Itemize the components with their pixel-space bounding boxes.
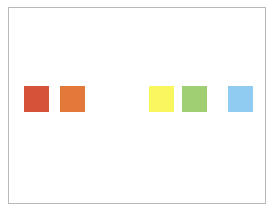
swatch-blue[interactable] xyxy=(228,86,253,112)
swatch-green[interactable] xyxy=(182,86,207,112)
swatch-yellow[interactable] xyxy=(149,86,174,112)
swatch-red[interactable] xyxy=(24,86,49,112)
swatch-orange[interactable] xyxy=(60,86,85,112)
clipped-header-text xyxy=(0,0,275,2)
